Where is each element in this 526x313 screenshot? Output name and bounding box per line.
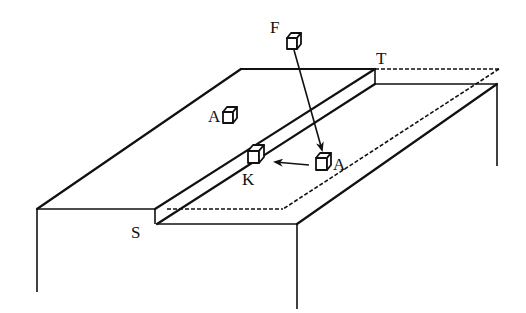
label-k: K [242,170,255,189]
cube-f [287,33,301,49]
arrow-f-to-a [294,50,322,150]
label-t: T [376,49,387,68]
cube-a-left [223,107,237,123]
label-s: S [131,223,140,242]
label-a-left: A [208,107,221,126]
arrow-a-to-k [275,162,309,165]
table-diagram: F T A K A S [0,0,526,313]
cube-a-right [316,153,331,170]
groove-rail [155,69,375,224]
lower-shelf [157,69,499,309]
label-a-right: A [333,155,346,174]
cube-k [248,145,264,163]
label-f: F [270,18,279,37]
